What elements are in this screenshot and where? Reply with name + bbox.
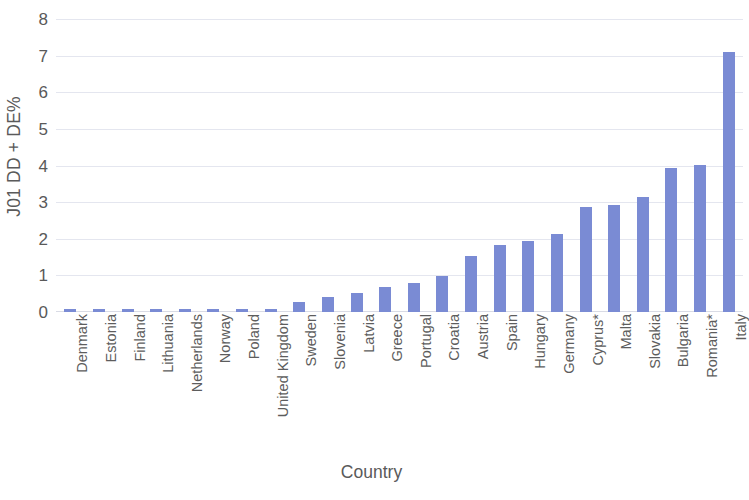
bar [665,168,677,312]
bar [236,309,248,312]
x-tick-label: Romania* [705,314,719,378]
bar [64,309,76,312]
bar [580,207,592,312]
x-tick-label: Lithuania [161,314,175,373]
bar [293,302,305,312]
y-tick-label: 7 [39,47,48,64]
bar [265,309,277,312]
bar [608,205,620,312]
bar [551,234,563,312]
x-tick-label: Denmark [75,314,89,373]
y-tick-label: 5 [39,120,48,137]
x-tick-label: Italy [734,314,748,341]
x-tick-label: Bulgaria [676,314,690,367]
bar [207,309,219,312]
x-tick-label: Netherlands [190,314,204,392]
x-axis-title-text: Country [341,462,402,482]
bar [723,52,735,312]
bar [436,276,448,312]
plot-area [56,19,743,312]
bar [694,165,706,312]
y-axis-tick-labels: 876543210 [26,0,52,330]
bar [322,297,334,312]
bar [522,241,534,312]
x-tick-label: Latvia [362,314,376,353]
bar [351,293,363,312]
x-tick-label: United Kingdom [276,314,290,417]
bar [494,245,506,312]
bar [408,283,420,312]
bar [150,309,162,312]
bar [93,309,105,312]
x-tick-label: Sweden [304,314,318,366]
bars-layer [56,19,743,312]
bar [122,309,134,312]
x-tick-label: Austria [476,314,490,359]
bar [637,197,649,312]
y-tick-label: 4 [39,157,48,174]
y-axis-title-text: J01 DD + DE% [4,96,25,217]
y-tick-label: 2 [39,230,48,247]
x-tick-label: Cyprus* [591,314,605,366]
x-tick-label: Norway [218,314,232,363]
y-tick-label: 6 [39,84,48,101]
x-tick-label: Greece [390,314,404,362]
x-tick-label: Finland [133,314,147,362]
x-tick-label: Hungary [533,314,547,369]
y-tick-label: 0 [39,304,48,321]
y-tick-label: 3 [39,194,48,211]
bar [465,256,477,312]
x-tick-label: Spain [505,314,519,351]
bar [179,309,191,312]
x-tick-label: Estonia [104,314,118,362]
bar [379,287,391,312]
x-tick-label: Slovakia [648,314,662,369]
x-tick-label: Poland [247,314,261,359]
x-tick-label: Slovenia [333,314,347,370]
x-axis-tick-labels: DenmarkEstoniaFinlandLithuaniaNetherland… [56,314,743,444]
y-tick-label: 1 [39,267,48,284]
x-tick-label: Malta [619,314,633,349]
x-tick-label: Germany [562,314,576,374]
y-axis-title: J01 DD + DE% [0,0,28,312]
x-tick-label: Portugal [419,314,433,368]
x-axis-title: Country [0,462,743,483]
y-tick-label: 8 [39,11,48,28]
x-tick-label: Croatia [447,314,461,361]
